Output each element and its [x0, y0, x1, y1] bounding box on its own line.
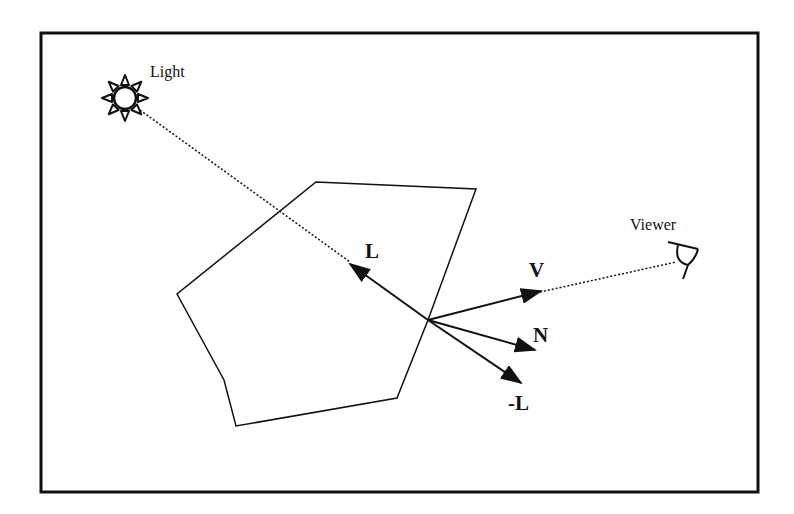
frame-border — [41, 33, 758, 492]
vector-L — [350, 264, 428, 320]
vector-V — [428, 291, 541, 320]
sun-icon — [102, 75, 148, 121]
vector-V-label: V — [529, 258, 544, 282]
vector-N-label: N — [533, 323, 548, 347]
eye-icon — [668, 242, 698, 279]
lighting-diagram: Light Viewer L V N -L — [0, 0, 794, 514]
polygon-surface — [177, 182, 476, 426]
vector-N — [428, 320, 535, 350]
light-label: Light — [150, 63, 185, 81]
vector-neg-L-label: -L — [508, 391, 529, 415]
vector-neg-L — [428, 320, 521, 383]
vector-L-label: L — [365, 239, 379, 263]
view-ray — [540, 262, 676, 292]
viewer-label: Viewer — [630, 216, 677, 233]
